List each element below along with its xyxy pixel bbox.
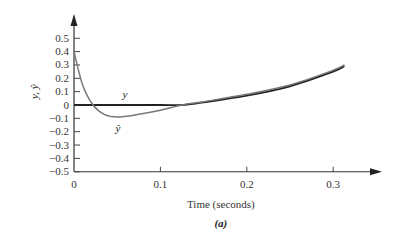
series-line-y	[74, 66, 344, 105]
x-axis-label: Time (seconds)	[187, 198, 255, 211]
x-tick-label: 0.3	[326, 178, 340, 190]
series-line-y_hat	[74, 52, 344, 117]
y-tick-label: 0.4	[55, 45, 69, 57]
y-tick-label: 0.1	[55, 85, 69, 97]
y-tick-label: 0	[64, 99, 70, 111]
y-tick-label: −0.4	[49, 152, 69, 164]
y-tick-label: 0.5	[55, 32, 69, 44]
y-axis-arrow-icon	[71, 14, 78, 26]
x-tick-label: 0.2	[240, 178, 254, 190]
chart-canvas: 0.50.40.30.20.10−0.1−0.2−0.3−0.4−0.500.1…	[0, 0, 397, 234]
series-label-y-hat: ŷ	[115, 122, 121, 134]
y-tick-label: −0.2	[49, 125, 69, 137]
y-tick-label: −0.1	[49, 112, 69, 124]
series-label-y: y	[122, 88, 128, 100]
x-axis-arrow-icon	[370, 168, 382, 175]
x-tick-label: 0.1	[154, 178, 168, 190]
y-tick-label: 0.2	[55, 72, 69, 84]
y-tick-label: −0.3	[49, 139, 69, 151]
y-tick-label: −0.5	[49, 165, 69, 177]
figure-caption: (a)	[214, 217, 227, 230]
x-tick-label: 0	[71, 178, 77, 190]
y-tick-label: 0.3	[55, 58, 69, 70]
y-axis-label: y, ŷ	[28, 84, 40, 100]
